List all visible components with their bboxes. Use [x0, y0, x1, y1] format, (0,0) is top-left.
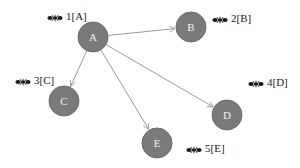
node-label: A [89, 31, 97, 43]
node-c[interactable]: C [49, 86, 79, 116]
node-d[interactable]: D [212, 100, 242, 130]
side-label-text: 2[B] [231, 12, 251, 24]
side-label-b: 2[B] [212, 12, 251, 24]
ant-icon [15, 76, 31, 84]
node-label: B [187, 21, 194, 33]
node-b[interactable]: B [176, 12, 206, 42]
side-label-c: 3[C] [15, 74, 54, 86]
edge-a-to-c [71, 51, 87, 87]
node-a[interactable]: A [78, 22, 108, 52]
edge-a-to-e [101, 50, 149, 129]
ant-icon [212, 14, 228, 22]
edge-a-to-b [108, 29, 175, 36]
node-label: C [60, 95, 67, 107]
node-label: E [154, 137, 161, 149]
side-label-text: 3[C] [34, 74, 54, 86]
side-label-text: 4[D] [267, 76, 288, 88]
ant-icon [248, 78, 264, 86]
ant-icon [47, 12, 63, 20]
side-label-e: 5[E] [186, 142, 225, 154]
side-label-text: 1[A] [66, 10, 87, 22]
node-e[interactable]: E [142, 128, 172, 158]
side-label-text: 5[E] [205, 142, 225, 154]
ant-icon [186, 144, 202, 152]
nodes-layer: ABCDE [49, 12, 242, 158]
side-label-d: 4[D] [248, 76, 288, 88]
edge-a-to-d [106, 45, 213, 107]
side-label-a: 1[A] [47, 10, 87, 22]
node-label: D [223, 109, 231, 121]
